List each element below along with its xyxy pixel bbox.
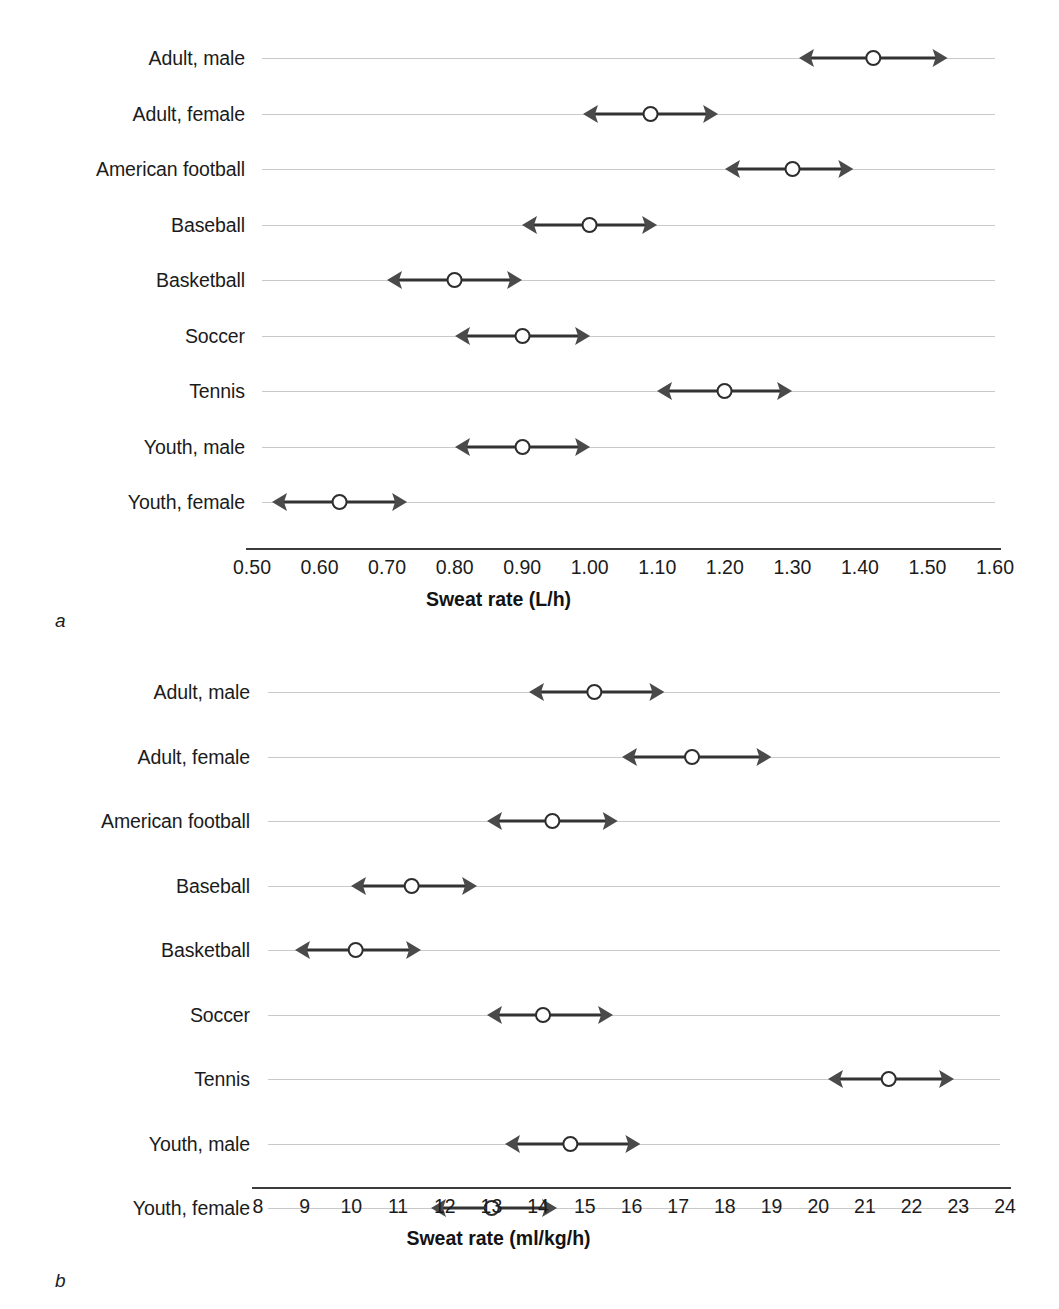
- range-marker: [579, 97, 722, 131]
- range-marker: [525, 675, 668, 709]
- range-marker: [795, 41, 952, 75]
- chart-row: Soccer: [0, 998, 1059, 1032]
- x-tick-label: 1.60: [976, 556, 1014, 579]
- panel-b: Adult, maleAdult, femaleAmerican footbal…: [0, 650, 1059, 1309]
- x-tick-label: 18: [714, 1195, 736, 1218]
- category-label: Adult, male: [0, 675, 250, 709]
- category-label: Soccer: [0, 319, 245, 353]
- range-marker: [451, 430, 594, 464]
- gridline: [262, 447, 995, 448]
- gridline: [262, 391, 995, 392]
- category-label: Adult, male: [0, 41, 245, 75]
- panel-a: Adult, maleAdult, femaleAmerican footbal…: [0, 0, 1059, 650]
- x-tick-label: 11: [388, 1195, 408, 1218]
- x-tick-label: 12: [434, 1195, 456, 1218]
- x-tick-label: 0.70: [368, 556, 406, 579]
- range-marker: [268, 485, 411, 519]
- x-tick-label: 13: [481, 1195, 503, 1218]
- x-tick-label: 1.20: [706, 556, 744, 579]
- category-label: Soccer: [0, 998, 250, 1032]
- x-tick-label: 17: [667, 1195, 689, 1218]
- x-tick-label: 1.30: [773, 556, 811, 579]
- x-tick-label: 1.40: [841, 556, 879, 579]
- range-marker: [347, 869, 481, 903]
- x-tick-label: 21: [854, 1195, 876, 1218]
- category-label: Tennis: [0, 1062, 250, 1096]
- category-label: Tennis: [0, 374, 245, 408]
- gridline: [262, 169, 995, 170]
- chart-row: Youth, male: [0, 1127, 1059, 1161]
- range-marker: [501, 1127, 644, 1161]
- range-marker: [383, 263, 526, 297]
- category-label: Baseball: [0, 208, 245, 242]
- chart-row: American football: [0, 804, 1059, 838]
- category-label: American football: [0, 152, 245, 186]
- x-tick-label: 0.50: [233, 556, 271, 579]
- category-label: Youth, male: [0, 430, 245, 464]
- x-tick-label: 10: [341, 1195, 363, 1218]
- category-label: American football: [0, 804, 250, 838]
- chart-row: Baseball: [0, 208, 1059, 242]
- range-marker: [518, 208, 661, 242]
- x-tick-label: 23: [947, 1195, 969, 1218]
- gridline: [262, 336, 995, 337]
- x-tick-label: 14: [527, 1195, 549, 1218]
- x-tick-label: 0.60: [301, 556, 339, 579]
- chart-row: Tennis: [0, 374, 1059, 408]
- chart-row: Tennis: [0, 1062, 1059, 1096]
- category-label: Basketball: [0, 933, 250, 967]
- chart-row: Soccer: [0, 319, 1059, 353]
- gridline: [268, 1015, 1000, 1016]
- chart-row: Adult, male: [0, 675, 1059, 709]
- range-marker: [618, 740, 775, 774]
- range-marker: [291, 933, 425, 967]
- chart-row: American football: [0, 152, 1059, 186]
- range-marker: [451, 319, 594, 353]
- category-label: Youth, female: [0, 485, 245, 519]
- category-label: Adult, female: [0, 740, 250, 774]
- x-axis-title: Sweat rate (L/h): [0, 588, 1059, 611]
- chart-row: Youth, male: [0, 430, 1059, 464]
- gridline: [262, 280, 995, 281]
- x-tick-label: 1.00: [571, 556, 609, 579]
- range-marker: [721, 152, 857, 186]
- x-axis-line: [246, 548, 1001, 550]
- x-tick-label: 8: [253, 1195, 264, 1218]
- chart-row: Baseball: [0, 869, 1059, 903]
- x-tick-label: 22: [901, 1195, 923, 1218]
- range-marker: [483, 998, 617, 1032]
- chart-row: Basketball: [0, 263, 1059, 297]
- category-label: Adult, female: [0, 97, 245, 131]
- x-tick-label: 20: [807, 1195, 829, 1218]
- category-label: Baseball: [0, 869, 250, 903]
- panel-b-letter: b: [55, 1270, 66, 1292]
- x-tick-label: 24: [994, 1195, 1016, 1218]
- x-axis-title-text: Sweat rate (L/h): [426, 588, 571, 611]
- gridline: [268, 821, 1000, 822]
- x-tick-label: 0.80: [436, 556, 474, 579]
- x-axis-line: [252, 1187, 1011, 1189]
- category-label: Basketball: [0, 263, 245, 297]
- x-axis-title-text: Sweat rate (ml/kg/h): [406, 1227, 590, 1250]
- x-tick-label: 1.50: [908, 556, 946, 579]
- chart-row: Adult, female: [0, 740, 1059, 774]
- range-marker: [483, 804, 622, 838]
- range-marker: [653, 374, 796, 408]
- x-tick-label: 9: [299, 1195, 310, 1218]
- range-marker: [824, 1062, 958, 1096]
- category-label: Youth, male: [0, 1127, 250, 1161]
- chart-row: Youth, female: [0, 485, 1059, 519]
- x-tick-label: 16: [621, 1195, 643, 1218]
- x-tick-label: 15: [574, 1195, 596, 1218]
- chart-row: Basketball: [0, 933, 1059, 967]
- panel-a-letter: a: [55, 610, 66, 632]
- chart-row: Adult, male: [0, 41, 1059, 75]
- chart-row: Adult, female: [0, 97, 1059, 131]
- x-tick-label: 0.90: [503, 556, 541, 579]
- x-tick-label: 1.10: [638, 556, 676, 579]
- x-tick-label: 19: [761, 1195, 783, 1218]
- x-axis-title: Sweat rate (ml/kg/h): [0, 1227, 1059, 1250]
- category-label: Youth, female: [0, 1191, 250, 1225]
